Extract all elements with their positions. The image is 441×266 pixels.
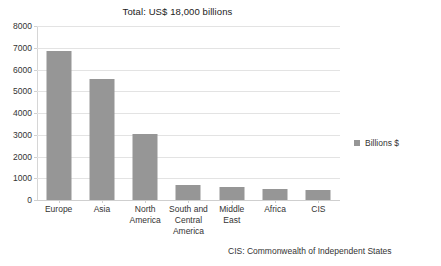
bar-slot	[80, 26, 123, 200]
y-axis-tick-label: 7000	[13, 44, 32, 53]
y-axis-tick-label: 4000	[13, 109, 32, 118]
bar-africa[interactable]	[263, 189, 288, 200]
x-axis-label-line: East	[210, 215, 253, 226]
x-axis-label-line: Central	[167, 215, 210, 226]
x-axis-labels: EuropeAsiaNorthAmericaSouth andCentralAm…	[37, 204, 340, 252]
bar-north-america[interactable]	[133, 134, 158, 200]
y-axis-tick-label: 0	[27, 196, 32, 205]
bar-asia[interactable]	[89, 79, 114, 200]
x-axis-label: MiddleEast	[210, 204, 253, 226]
x-tickmark	[275, 200, 276, 203]
x-axis-label: South andCentralAmerica	[167, 204, 210, 237]
bar-slot	[37, 26, 80, 200]
x-axis-label-line: Europe	[37, 204, 80, 215]
y-axis-tick-label: 6000	[13, 65, 32, 74]
x-axis-label: CIS	[297, 204, 340, 215]
x-tickmark	[145, 200, 146, 203]
y-axis-tick-label: 5000	[13, 87, 32, 96]
y-tickmark-0	[34, 200, 37, 201]
x-tickmark	[59, 200, 60, 203]
x-axis-label: NorthAmerica	[124, 204, 167, 226]
y-axis-tick-label: 3000	[13, 131, 32, 140]
bar-slot	[297, 26, 340, 200]
x-tickmark	[102, 200, 103, 203]
bar-slot	[124, 26, 167, 200]
x-axis-label-line: South and	[167, 204, 210, 215]
bar-south-and-central-america[interactable]	[176, 185, 201, 200]
y-axis-tick-label: 1000	[13, 174, 32, 183]
chart-legend: Billions $	[354, 138, 399, 148]
plot-area: 800070006000500040003000200010000	[37, 26, 340, 200]
x-tickmark	[318, 200, 319, 203]
bar-slot	[167, 26, 210, 200]
x-axis-label-line: Africa	[253, 204, 296, 215]
x-tickmark	[188, 200, 189, 203]
y-axis-tick-label: 2000	[13, 152, 32, 161]
x-axis-label-line: Middle	[210, 204, 253, 215]
bar-slot	[210, 26, 253, 200]
x-axis-label: Europe	[37, 204, 80, 215]
x-axis-label-line: CIS	[297, 204, 340, 215]
bar-europe[interactable]	[46, 51, 71, 200]
x-axis-label: Africa	[253, 204, 296, 215]
x-tickmark	[232, 200, 233, 203]
legend-swatch-billions	[354, 140, 360, 146]
x-axis-label-line: America	[124, 215, 167, 226]
bar-slot	[253, 26, 296, 200]
x-axis-label-line: North	[124, 204, 167, 215]
chart-footnote: CIS: Commonwealth of Independent States	[228, 246, 391, 256]
y-axis-tick-label: 8000	[13, 22, 32, 31]
chart-title: Total: US$ 18,000 billions	[0, 6, 355, 17]
x-axis-label: Asia	[80, 204, 123, 215]
bar-middle-east[interactable]	[219, 187, 244, 200]
bar-cis[interactable]	[306, 190, 331, 200]
x-axis-label-line: Asia	[80, 204, 123, 215]
legend-label-billions: Billions $	[365, 138, 399, 148]
x-axis-label-line: America	[167, 226, 210, 237]
